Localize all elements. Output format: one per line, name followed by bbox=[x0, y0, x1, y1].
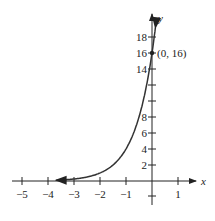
point-marker bbox=[150, 51, 154, 55]
labels: −5−4−3−2−112468141618xy(0, 16) bbox=[16, 12, 206, 200]
chart: −5−4−3−2−112468141618xy(0, 16) bbox=[0, 0, 215, 221]
x-tick-label: −4 bbox=[42, 188, 54, 200]
x-tick-label: −2 bbox=[94, 188, 106, 200]
y-axis-label: y bbox=[157, 12, 163, 24]
y-tick-label: 6 bbox=[142, 127, 148, 139]
x-tick-label: −3 bbox=[68, 188, 80, 200]
x-tick-label: 1 bbox=[175, 188, 181, 200]
axes bbox=[12, 14, 196, 205]
ticks bbox=[22, 37, 178, 185]
x-tick-label: −1 bbox=[120, 188, 132, 200]
y-tick-label: 14 bbox=[136, 63, 148, 75]
y-tick-label: 8 bbox=[142, 111, 148, 123]
x-axis-label: x bbox=[200, 175, 206, 187]
y-tick-label: 16 bbox=[136, 47, 148, 59]
x-tick-label: −5 bbox=[16, 188, 28, 200]
y-tick-label: 2 bbox=[142, 159, 148, 171]
y-tick-label: 18 bbox=[136, 31, 148, 43]
point-annotation: (0, 16) bbox=[157, 47, 187, 60]
y-tick-label: 4 bbox=[142, 143, 148, 155]
